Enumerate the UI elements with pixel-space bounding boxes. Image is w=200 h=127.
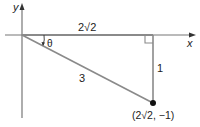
vertical-leg-label: 1 <box>157 63 163 74</box>
hypotenuse-label: 3 <box>79 73 85 84</box>
y-axis-label: y <box>13 2 19 13</box>
point-label: (2√2, −1) <box>132 110 174 121</box>
hypotenuse <box>22 35 153 103</box>
y-axis-arrow-icon <box>20 3 25 10</box>
x-axis-label: x <box>187 38 193 49</box>
right-angle-marker <box>145 35 153 43</box>
point-marker <box>150 100 156 106</box>
right-triangle-diagram <box>0 0 200 127</box>
angle-label: θ <box>47 39 53 49</box>
horizontal-leg-label: 2√2 <box>78 22 96 33</box>
